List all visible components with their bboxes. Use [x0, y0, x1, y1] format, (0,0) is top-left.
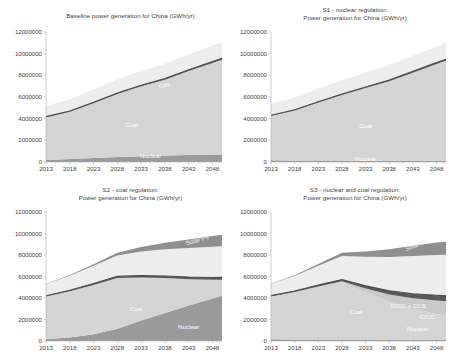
x-tick-label: 2028 — [335, 165, 349, 172]
x-tick-label: 2043 — [182, 344, 196, 351]
y-tick-label: 2000000 — [243, 316, 267, 323]
x-tick-label: 2023 — [87, 344, 101, 351]
panel-s1-chart: 1200000010000000800000060000004000000200… — [225, 0, 449, 180]
y-tick-label: 0 — [264, 158, 268, 165]
x-tick-label: 2033 — [359, 165, 373, 172]
y-tick-label: 4000000 — [18, 115, 42, 122]
y-tick-label: 8000000 — [243, 71, 267, 78]
x-tick-label: 2048 — [206, 344, 220, 351]
figure-panel-grid: Baseline power generation for China (GWh… — [0, 0, 449, 359]
area-label-coal: Coal — [350, 308, 363, 315]
x-tick-label: 2018 — [63, 165, 77, 172]
x-tick-label: 2013 — [264, 344, 278, 351]
x-tick-label: 2028 — [335, 344, 349, 351]
x-tick-label: 2028 — [111, 165, 125, 172]
area-label-igcc: IGCC — [419, 313, 435, 320]
y-tick-label: 4000000 — [243, 115, 267, 122]
panel-s2-chart: 1200000010000000800000060000004000000200… — [0, 180, 225, 359]
y-tick-label: 6000000 — [243, 93, 267, 100]
x-tick-label: 2023 — [312, 165, 326, 172]
area-label-coal: Coal — [125, 121, 138, 128]
panel-s2: S2 - coal regulation: Power generation f… — [0, 180, 225, 359]
y-tick-label: 8000000 — [18, 71, 42, 78]
x-tick-label: 2038 — [158, 344, 172, 351]
area-label-nuclear: Nuclear — [355, 155, 376, 162]
y-tick-label: 12000000 — [15, 208, 43, 215]
panel-s3-chart: 1200000010000000800000060000004000000200… — [225, 180, 449, 359]
x-tick-label: 2023 — [312, 344, 326, 351]
y-tick-label: 6000000 — [18, 273, 42, 280]
x-tick-label: 2033 — [359, 344, 373, 351]
y-tick-label: 2000000 — [243, 136, 267, 143]
x-tick-label: 2043 — [406, 344, 420, 351]
area-label-nuclear: Nuclear — [140, 152, 161, 159]
y-tick-label: 2000000 — [18, 136, 42, 143]
panel-baseline-chart: 1200000010000000800000060000004000000200… — [0, 0, 225, 180]
x-tick-label: 2038 — [382, 165, 396, 172]
x-tick-label: 2023 — [87, 165, 101, 172]
y-tick-label: 12000000 — [240, 208, 268, 215]
area-label-nuclear: Nuclear — [407, 325, 428, 332]
x-tick-label: 2043 — [182, 165, 196, 172]
area-label-coal: Coal — [359, 122, 372, 129]
x-tick-label: 2048 — [430, 165, 444, 172]
x-tick-label: 2018 — [288, 344, 302, 351]
x-tick-label: 2013 — [39, 165, 53, 172]
x-tick-label: 2013 — [39, 344, 53, 351]
x-tick-label: 2033 — [134, 165, 148, 172]
y-tick-label: 6000000 — [243, 273, 267, 280]
y-tick-label: 4000000 — [243, 294, 267, 301]
panel-s3: S3 - nuclear and coal regulation: Power … — [225, 180, 449, 359]
y-tick-label: 0 — [39, 158, 43, 165]
area-label-igcc-ccs: IGCC + CCS — [390, 302, 426, 309]
x-tick-label: 2038 — [158, 165, 172, 172]
x-tick-label: 2043 — [406, 165, 420, 172]
y-tick-label: 12000000 — [15, 28, 43, 35]
y-tick-label: 10000000 — [240, 230, 268, 237]
y-tick-label: 10000000 — [15, 50, 43, 57]
x-tick-label: 2013 — [264, 165, 278, 172]
y-tick-label: 12000000 — [240, 28, 268, 35]
area-label-nuclear: Nuclear — [178, 323, 199, 330]
x-tick-label: 2018 — [288, 165, 302, 172]
y-tick-label: 0 — [39, 337, 43, 344]
x-tick-label: 2018 — [63, 344, 77, 351]
y-tick-label: 8000000 — [18, 251, 42, 258]
y-tick-label: 2000000 — [18, 316, 42, 323]
x-tick-label: 2033 — [134, 344, 148, 351]
area-label-coal: Coal — [130, 305, 143, 312]
x-tick-label: 2048 — [206, 165, 220, 172]
y-tick-label: 4000000 — [18, 294, 42, 301]
y-tick-label: 10000000 — [15, 230, 43, 237]
x-tick-label: 2028 — [111, 344, 125, 351]
x-tick-label: 2038 — [382, 344, 396, 351]
y-tick-label: 6000000 — [18, 93, 42, 100]
x-tick-label: 2048 — [430, 344, 444, 351]
y-tick-label: 0 — [264, 337, 268, 344]
y-tick-label: 10000000 — [240, 50, 268, 57]
y-tick-label: 8000000 — [243, 251, 267, 258]
panel-baseline: Baseline power generation for China (GWh… — [0, 0, 225, 180]
panel-s1: S1 - nuclear regulation: Power generatio… — [225, 0, 449, 180]
